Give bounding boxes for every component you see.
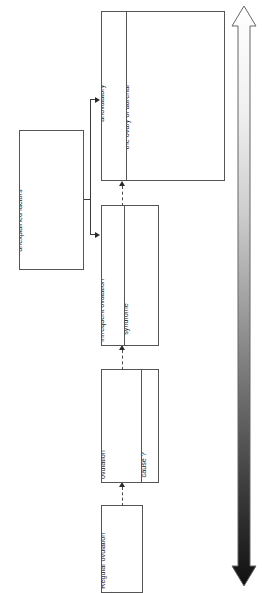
text-line: syndrome	[124, 260, 130, 342]
normal-menstruation-box: normal regular menstruation 4–5 days out…	[101, 505, 143, 593]
contributing-factors-cell: 1. Hypothalamic disorders 2. Thyrotoxico…	[20, 131, 83, 269]
infrequent-periods-box: infrequent periods; infrequent ovulation…	[101, 205, 159, 346]
bracket-arrow-upper	[95, 97, 100, 103]
infrequent-cause-cell: cause: Polycystic ovaries; ‘Stein–Levent…	[124, 206, 158, 345]
text-line: unexplained factors	[20, 158, 25, 265]
anovular-state-cell: normal regular cycle; occasionally anovu…	[102, 370, 141, 482]
text-line: infrequent ovulation	[102, 279, 107, 342]
normal-menstruation-text: normal regular menstruation 4–5 days out…	[102, 533, 108, 589]
occasionally-anovular-box: normal regular cycle; occasionally anovu…	[101, 369, 159, 483]
anovular-cause-text: cause ?	[141, 452, 148, 477]
amenorrhoea-causes-text: causes: 1. Adenohypophysial disorders: (…	[126, 47, 132, 176]
bracket-spine	[90, 99, 91, 235]
infrequent-state-cell: infrequent periods; infrequent ovulation	[102, 206, 124, 345]
amenorrhoea-causes-cell: causes: 1. Adenohypophysial disorders: (…	[126, 12, 224, 180]
bracket-arrow-lower	[95, 232, 100, 238]
text-line: anovulatory	[102, 72, 107, 122]
text-line: the ovary or adrenal	[126, 47, 132, 176]
text-line: cause ?	[141, 452, 148, 477]
anovular-cause-cell: cause ?	[141, 370, 158, 482]
text-line: Regular ovulation	[102, 533, 108, 589]
severity-gradient-arrow	[228, 0, 262, 592]
connector-anovular-to-infrequent	[122, 350, 123, 370]
amenorrhoea-state-text: ↑amenorrhoea ; anovulatory	[102, 72, 107, 122]
connector-normal-to-anovular	[122, 487, 123, 506]
infrequent-cause-text: cause: Polycystic ovaries; ‘Stein–Levent…	[124, 260, 130, 342]
text-line: ovulation	[102, 407, 107, 479]
anovular-state-text: normal regular cycle; occasionally anovu…	[102, 407, 107, 479]
infrequent-state-text: infrequent periods; infrequent ovulation	[102, 279, 107, 342]
contributing-factors-text: 1. Hypothalamic disorders 2. Thyrotoxico…	[20, 158, 25, 265]
amenorrhoea-state-cell: ↑amenorrhoea ; anovulatory	[102, 12, 126, 180]
contributing-factors-box: 1. Hypothalamic disorders 2. Thyrotoxico…	[19, 130, 84, 270]
amenorrhoea-box: ↑amenorrhoea ; anovulatory causes: 1. Ad…	[101, 11, 225, 181]
connector-arrow-infrequent-to-amenorrhoea	[119, 181, 125, 186]
connector-infrequent-to-amenorrhoea	[122, 186, 123, 206]
normal-menstruation-text-cell: normal regular menstruation 4–5 days out…	[102, 506, 142, 592]
